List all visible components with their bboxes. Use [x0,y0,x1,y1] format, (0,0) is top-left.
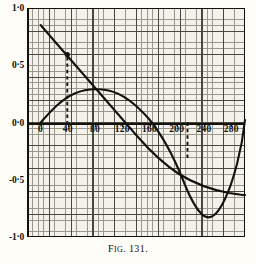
x-tick-label-160: 160 [142,124,157,134]
y-tick-label-0.0: 0·0 [0,118,24,128]
x-tick-label-280: 280 [224,124,239,134]
x-tick-label-240: 240 [197,124,212,134]
plot-area [27,8,245,237]
x-tick-label-40: 40 [63,124,73,134]
y-tick-label-1.0: 1·0 [0,3,24,13]
y-tick-label-0.5: 0·5 [0,60,24,70]
plot-border [27,8,245,237]
figure-caption: FIG. 131. [0,243,256,254]
y-tick-label--0.5: -0·5 [0,175,24,185]
x-tick-label-0: 0 [38,124,43,134]
caption-suffix: . 131. [123,243,148,254]
y-tick-label--1.0: -1·0 [0,232,24,242]
x-tick-label-120: 120 [115,124,130,134]
figure-131: 0 40 80 120 160 200 240 280 1·0 0·5 0·0 … [0,0,256,264]
caption-smallcaps: IG [114,245,123,254]
x-tick-label-200: 200 [169,124,184,134]
x-tick-label-80: 80 [90,124,100,134]
